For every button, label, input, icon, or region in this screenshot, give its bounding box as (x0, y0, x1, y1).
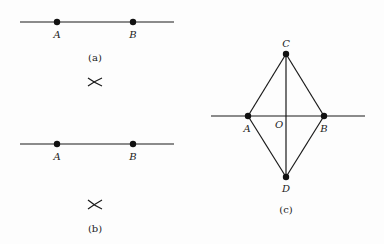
point-b-panel-c (321, 113, 327, 119)
label-d: D (281, 183, 290, 194)
segment-bd (286, 116, 324, 177)
caption-b: (b) (88, 223, 102, 234)
label-a-panel-a: A (52, 29, 60, 40)
label-b-panel-c: B (319, 123, 327, 134)
segment-ac (248, 54, 286, 116)
label-b-panel-a: B (128, 29, 136, 40)
point-a-panel-b (54, 141, 60, 147)
label-c: C (282, 38, 290, 49)
point-a-panel-a (54, 19, 60, 25)
arc-intersection-mark-a (88, 78, 102, 86)
label-a-panel-c: A (242, 123, 250, 134)
geometry-construction-figure: A B (a) A B (b) (0, 0, 384, 244)
point-b-panel-a (130, 19, 136, 25)
point-c (283, 51, 289, 57)
point-a-panel-c (245, 113, 251, 119)
caption-c: (c) (279, 204, 293, 215)
caption-a: (a) (88, 52, 102, 63)
segment-cb (286, 54, 324, 116)
label-a-panel-b: A (52, 151, 60, 162)
label-b-panel-b: B (128, 151, 136, 162)
point-b-panel-b (130, 141, 136, 147)
panel-a: A B (a) (20, 19, 174, 86)
arc-intersection-mark-b (88, 200, 102, 209)
diagram-svg: A B (a) A B (b) (0, 0, 384, 244)
label-o: O (275, 119, 283, 130)
point-d (283, 174, 289, 180)
panel-c: C A O B D (c) (211, 38, 365, 215)
panel-b: A B (b) (20, 141, 174, 234)
